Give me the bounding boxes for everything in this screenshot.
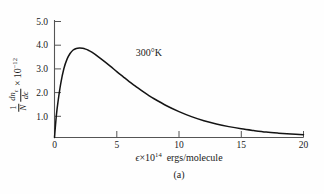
y-label-frac-one-over-n: 1 N [10, 104, 29, 112]
curve-temperature-annotation: 300°K [136, 47, 162, 58]
x-axis-label: ϵ×1014ergs/molecule [54, 151, 304, 163]
figure-caption: (a) [54, 169, 304, 180]
x-label-exponent: 14 [155, 151, 162, 158]
distribution-curve [55, 48, 304, 137]
figure-container: 1.0 2.0 3.0 4.0 5.0 0 5 10 15 20 1 N dnϵ… [0, 0, 324, 194]
x-tick-label-15: 15 [231, 140, 251, 150]
y-label-exponent: −12 [11, 58, 18, 68]
y-axis-label: 1 N dnϵ dϵ ×10−12 [8, 30, 29, 140]
y-label-base: 10 [12, 68, 23, 78]
x-tick-label-0: 0 [45, 140, 65, 150]
y-label-frac-dn-de: dnϵ dϵ [8, 89, 29, 102]
x-tick-label-10: 10 [169, 140, 189, 150]
x-label-units: ergs/molecule [167, 152, 223, 163]
x-tick-label-5: 5 [107, 140, 127, 150]
plot-area [0, 0, 324, 194]
y-label-times: × [12, 80, 23, 86]
x-label-base: 10 [145, 152, 155, 163]
y-tick-label-5: 5.0 [26, 17, 48, 27]
x-tick-label-20: 20 [294, 140, 314, 150]
